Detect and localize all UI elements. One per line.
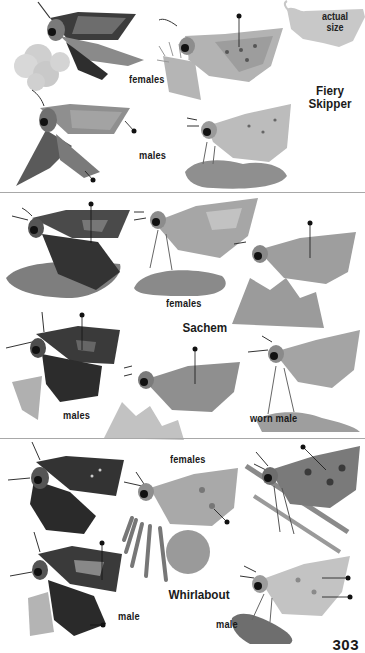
label-whirlabout-females: females bbox=[170, 453, 206, 465]
actual-size-line-2: size bbox=[315, 22, 355, 33]
twig-perch bbox=[232, 614, 293, 644]
label-sachem-worn-male: worn male bbox=[250, 412, 297, 424]
fiery-skipper-female-ventral bbox=[155, 12, 285, 102]
label-whirlabout-male-left: male bbox=[118, 610, 140, 622]
pointer-callout bbox=[307, 220, 313, 258]
title-line-2: Skipper bbox=[305, 97, 355, 110]
section-divider bbox=[0, 192, 365, 193]
label-sachem-males: males bbox=[63, 409, 90, 421]
sachem-female-ventral-2 bbox=[230, 228, 360, 328]
pointer-callout bbox=[99, 540, 105, 580]
pointer-callout bbox=[300, 444, 330, 474]
moss-perch bbox=[134, 270, 226, 296]
sachem-male-ventral bbox=[102, 350, 242, 440]
title-whirlabout: Whirlabout bbox=[168, 588, 231, 601]
fiery-skipper-male-ventral bbox=[183, 102, 293, 190]
whirlabout-female-dorsal bbox=[6, 440, 126, 538]
leaf-perch bbox=[185, 160, 287, 188]
flower-perch bbox=[28, 592, 54, 636]
label-fiery-females: females bbox=[129, 73, 165, 85]
fiery-skipper-male-dorsal bbox=[10, 90, 135, 188]
pointer-callout bbox=[322, 575, 352, 581]
pointer-callout bbox=[124, 120, 136, 134]
pointer-callout bbox=[90, 622, 106, 628]
whirlabout-female-ventral bbox=[122, 468, 242, 588]
title-sachem: Sachem bbox=[182, 321, 225, 334]
pointer-callout bbox=[192, 346, 198, 384]
whirlabout-male-dorsal bbox=[8, 532, 126, 638]
actual-size-label: actual size bbox=[315, 11, 355, 33]
pointer-callout bbox=[88, 201, 94, 243]
title-fiery-skipper: Fiery Skipper bbox=[305, 84, 355, 110]
pointer-callout bbox=[213, 508, 231, 526]
whirlabout-male-ventral bbox=[230, 556, 354, 644]
label-whirlabout-male-right: male bbox=[216, 618, 238, 630]
fiery-skipper-female-dorsal bbox=[8, 0, 148, 92]
flower-perch bbox=[232, 278, 324, 328]
pointer-callout bbox=[84, 170, 96, 184]
pointer-callout bbox=[236, 13, 242, 47]
sachem-female-dorsal bbox=[2, 198, 132, 298]
section-divider bbox=[0, 438, 365, 439]
label-fiery-males: males bbox=[139, 149, 166, 161]
label-sachem-females: females bbox=[166, 297, 202, 309]
flower-perch bbox=[14, 44, 70, 91]
daisy-perch bbox=[124, 518, 210, 580]
pointer-callout bbox=[79, 312, 85, 350]
actual-size-line-1: actual bbox=[315, 11, 355, 22]
flower-perch bbox=[12, 376, 42, 420]
page-number: 303 bbox=[332, 636, 359, 653]
pointer-callout bbox=[322, 594, 354, 600]
